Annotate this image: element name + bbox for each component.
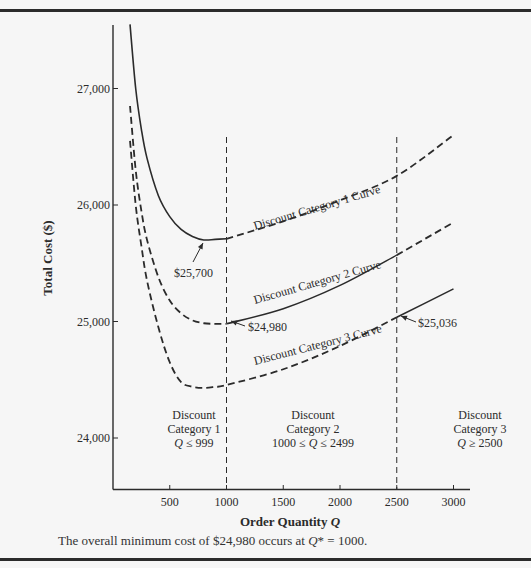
x-tick-label: 2000 — [328, 495, 352, 509]
curve-dashed-segment — [130, 106, 226, 324]
annotation-label: $25,700 — [174, 266, 213, 280]
caption-prefix: The overall minimum cost of $24,980 occu… — [58, 533, 308, 548]
region-text: Discount — [291, 408, 335, 422]
y-tick-label: 27,000 — [77, 82, 110, 96]
annotation-label: $25,036 — [418, 316, 457, 330]
region-text: Discount — [458, 408, 502, 422]
y-tick-label: 25,000 — [77, 315, 110, 329]
curve-dashed-segment — [397, 222, 454, 255]
region-text: Category 1 — [168, 422, 221, 436]
region-variable: Q — [174, 436, 183, 450]
total-cost-chart: 5001000150020002500300024,00025,00026,00… — [0, 0, 531, 568]
curve-solid-segment — [130, 24, 226, 240]
region-label-category-1: DiscountCategory 1Q ≤ 999 — [168, 408, 221, 450]
x-tick-label: 3000 — [442, 495, 466, 509]
region-text: ≤ 999 — [183, 436, 214, 450]
region-variable: Q — [309, 436, 318, 450]
y-tick-label: 26,000 — [77, 198, 110, 212]
region-text: ≤ 2499 — [317, 436, 354, 450]
region-text: Category 3 — [454, 422, 507, 436]
x-axis-title: Order Quantity Q — [240, 514, 341, 529]
caption-suffix: * = 1000. — [318, 533, 368, 548]
region-label-line: Category 1 — [168, 422, 221, 436]
arrowhead-icon — [401, 316, 408, 321]
region-label-line: Discount — [458, 408, 502, 422]
curve-label-category-1: Discount Category 1 Curve — [252, 182, 382, 233]
x-tick-label: 1500 — [271, 495, 295, 509]
curve-label-category-2: Discount Category 2 Curve — [252, 257, 382, 307]
chart-labels: Order Quantity QTotal Cost ($)Discount C… — [40, 182, 507, 529]
caption-variable: Q — [308, 533, 317, 548]
cost-curves — [130, 24, 453, 387]
region-label-category-2: DiscountCategory 21000 ≤ Q ≤ 2499 — [272, 408, 354, 450]
region-text: Discount — [172, 408, 216, 422]
figure-caption: The overall minimum cost of $24,980 occu… — [58, 533, 367, 549]
region-label-category-3: DiscountCategory 3Q ≥ 2500 — [454, 408, 507, 450]
x-axis-title-variable: Q — [331, 514, 341, 529]
y-tick-label: 24,000 — [77, 431, 110, 445]
region-label-line: Category 3 — [454, 422, 507, 436]
region-label-line: 1000 ≤ Q ≤ 2499 — [272, 436, 354, 450]
region-text: 1000 ≤ — [272, 436, 309, 450]
x-tick-label: 1000 — [215, 495, 239, 509]
region-label-line: Discount — [172, 408, 216, 422]
region-variable: Q — [457, 436, 466, 450]
region-label-line: Discount — [291, 408, 335, 422]
region-label-line: Category 2 — [287, 422, 340, 436]
region-label-line: Q ≥ 2500 — [457, 436, 502, 450]
annotation-label: $24,980 — [248, 320, 287, 334]
region-text: Category 2 — [287, 422, 340, 436]
x-tick-label: 2500 — [385, 495, 409, 509]
curve-solid-segment — [397, 289, 454, 317]
region-text: ≥ 2500 — [466, 436, 503, 450]
region-label-line: Q ≤ 999 — [174, 436, 213, 450]
y-axis-title: Total Cost ($) — [40, 220, 55, 295]
x-tick-label: 500 — [161, 495, 179, 509]
